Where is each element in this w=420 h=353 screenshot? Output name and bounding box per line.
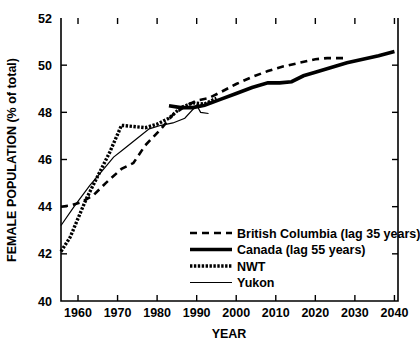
x-axis-title: YEAR [212,327,247,341]
x-tick-label: 1980 [143,306,171,320]
x-axis-tick-labels: 196019701980199020002010202020302040 [64,306,408,320]
x-tick-label: 2040 [381,306,409,320]
legend-label: Canada (lag 55 years) [237,243,366,257]
legend-label: British Columbia (lag 35 years) [237,227,420,241]
x-tick-label: 1990 [183,306,211,320]
line-chart: 40424446485052 1960197019801990200020102… [0,0,420,353]
series-line [61,98,216,251]
series-layer [61,51,394,251]
legend-label: NWT [237,260,266,274]
legend-label: Yukon [237,276,275,290]
series-line [61,58,343,207]
x-tick-label: 2020 [301,306,329,320]
y-tick-label: 42 [38,247,52,261]
chart-container: 40424446485052 1960197019801990200020102… [0,0,420,353]
y-tick-label: 48 [38,106,52,120]
x-tick-label: 1960 [64,306,92,320]
x-tick-label: 2000 [222,306,250,320]
y-tick-label: 40 [38,295,52,309]
y-axis-title: FEMALE POPULATION (% of total) [5,58,19,262]
y-axis-tick-labels: 40424446485052 [38,12,52,309]
chart-legend: British Columbia (lag 35 years)Canada (l… [190,227,420,291]
x-tick-label: 2010 [262,306,290,320]
y-tick-label: 50 [38,59,52,73]
y-tick-label: 44 [38,200,52,214]
y-tick-label: 52 [38,12,52,26]
x-tick-label: 1970 [104,306,132,320]
series-line [61,105,209,225]
x-tick-label: 2030 [341,306,369,320]
y-tick-label: 46 [38,153,52,167]
